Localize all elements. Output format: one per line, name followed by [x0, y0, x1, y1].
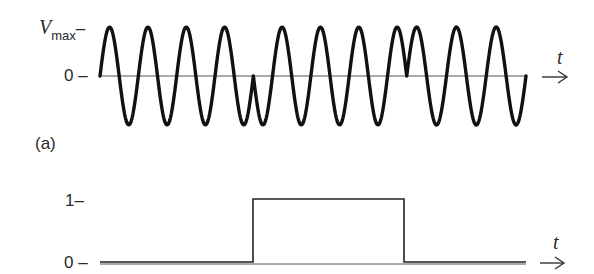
data-signal [100, 199, 526, 262]
arrow-icon-a [542, 71, 567, 83]
diagram-canvas [0, 0, 594, 274]
arrow-icon-b [540, 257, 564, 269]
